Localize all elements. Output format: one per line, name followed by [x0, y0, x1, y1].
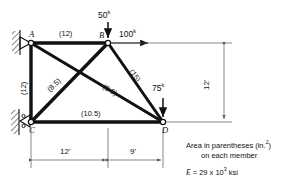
support-C — [11, 109, 30, 135]
joint-A — [28, 40, 33, 45]
load-label-100k-unit: k — [133, 28, 136, 34]
load-label-75k: 75k — [152, 83, 164, 92]
load-label-100k-value: 100 — [119, 29, 133, 39]
joint-C — [28, 119, 33, 124]
note-modulus-eq: = 29 x 10 — [191, 168, 224, 177]
area-label-AB: (12) — [59, 30, 72, 38]
note-area-close: ) — [269, 141, 272, 150]
node-label-A: A — [29, 30, 34, 39]
joint-D — [160, 119, 165, 124]
load-label-75k-unit: k — [161, 82, 164, 88]
node-label-B: B — [99, 31, 104, 40]
dim-label-9ft: 9' — [130, 148, 136, 156]
node-label-D: D — [162, 126, 168, 135]
note-modulus: E = 29 x 103 ksi — [186, 167, 238, 176]
dim-label-12ft: 12' — [60, 148, 70, 156]
node-label-C: C — [29, 126, 35, 135]
note-area-line2: on each member — [201, 152, 257, 160]
note-area-text: Area in parentheses (in. — [186, 141, 266, 150]
dim-label-height: 12' — [203, 80, 211, 90]
load-label-50k: 50k — [98, 10, 110, 19]
note-modulus-unit: ksi — [227, 168, 238, 177]
joint-B — [105, 40, 110, 45]
load-label-50k-unit: k — [107, 9, 110, 15]
area-label-CD: (10.5) — [81, 110, 101, 118]
truss-diagram: A B C D (12) (12) (8.5) (8.5) (15) (10.5… — [0, 0, 300, 188]
area-label-AC: (12) — [20, 82, 28, 95]
note-area-line1: Area in parentheses (in.2) — [186, 140, 271, 149]
load-label-100k: 100k — [119, 29, 136, 38]
